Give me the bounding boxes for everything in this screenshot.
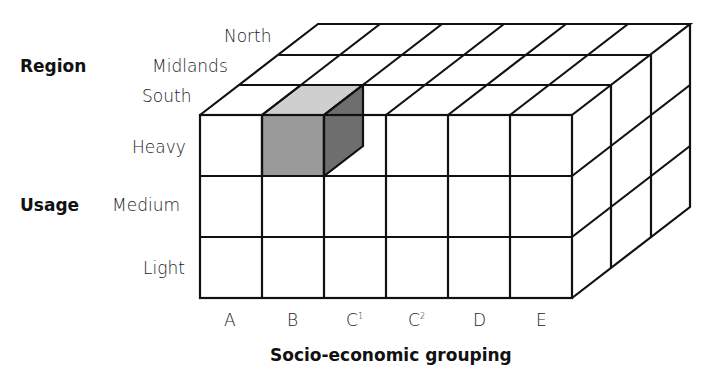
group-d-label: D: [473, 310, 486, 330]
region-south-label: South: [142, 86, 191, 106]
group-c2-label: C2: [408, 310, 425, 330]
group-b-label: B: [287, 310, 298, 330]
region-north-label: North: [224, 26, 272, 46]
socio-axis-title: Socio-economic grouping: [270, 345, 512, 365]
group-c1-label: C1: [346, 310, 363, 330]
usage-medium-label: Medium: [112, 195, 180, 215]
group-e-label: E: [536, 310, 547, 330]
usage-heavy-label: Heavy: [132, 137, 186, 157]
region-axis-title: Region: [20, 56, 86, 76]
usage-axis-title: Usage: [20, 195, 79, 215]
group-a-label: A: [224, 310, 236, 330]
usage-light-label: Light: [143, 258, 185, 278]
region-midlands-label: Midlands: [152, 56, 228, 76]
